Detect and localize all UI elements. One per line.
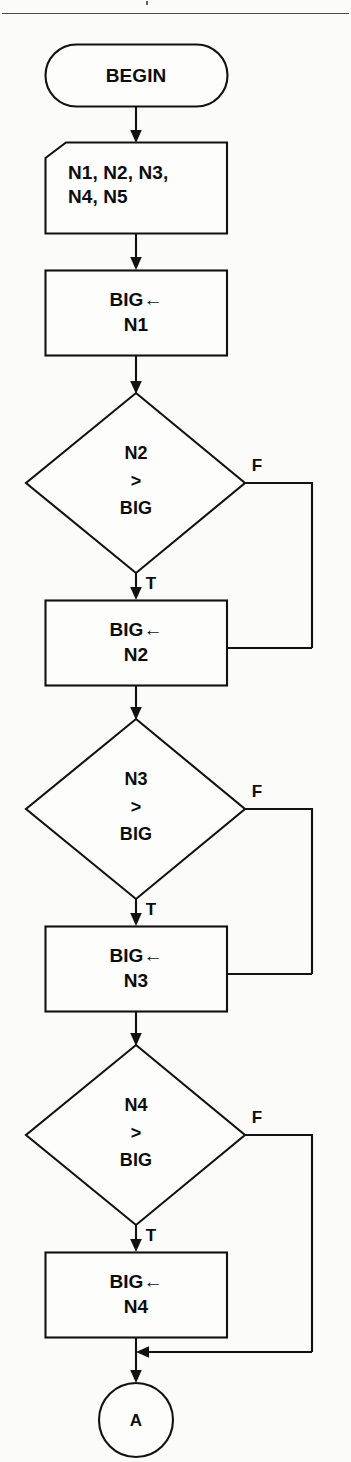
arrowhead-into-input [130,130,142,143]
decision-n4-false-label: F [247,1108,267,1127]
decision-n4-label-line3: BIG [76,1147,196,1174]
input-numbers-label-line1: N1, N2, N3, [68,161,218,185]
arrowhead-into-assign-n1 [130,257,142,270]
decision-n3-false-label: F [247,782,267,801]
arrowhead-n4-false-merge [136,1346,149,1358]
arrowhead-into-connector-a [130,1370,142,1383]
assign-big-n3-label-line1: BIG← [45,944,227,969]
flowchart-page: BEGIN N1, N2, N3, N4, N5 BIG← N1 N2 > BI… [0,0,351,1462]
decision-n3-label-line3: BIG [76,821,196,848]
flowchart-canvas [0,0,351,1462]
connector-a-label: A [116,1411,156,1430]
decision-n2-label-line2: > [76,468,196,495]
connector-n3-false-branch [245,809,312,974]
decision-n3-true-label: T [141,900,161,919]
assign-big-n1-label-line2: N1 [45,313,227,338]
assign-big-n3-label-line2: N3 [45,969,227,994]
connector-n4-false-branch [245,1135,312,1352]
assign-big-n1-label-line1: BIG← [45,288,227,313]
decision-n3-label-line2: > [76,794,196,821]
decision-n2-false-label: F [247,456,267,475]
decision-n4-label-line1: N4 [76,1092,196,1119]
decision-n4-true-label: T [141,1226,161,1245]
terminator-begin-label: BEGIN [45,65,227,86]
decision-n2-label-line1: N2 [76,440,196,467]
connector-n2-false-branch [245,483,312,648]
assign-big-n2-label-line1: BIG← [45,618,227,643]
decision-n4-label-line2: > [76,1120,196,1147]
assign-big-n4-label-line1: BIG← [45,1270,227,1295]
decision-n2-true-label: T [141,574,161,593]
assign-big-n2-label-line2: N2 [45,643,227,668]
decision-n3-label-line1: N3 [76,766,196,793]
assign-big-n4-label-line2: N4 [45,1295,227,1320]
decision-n2-label-line3: BIG [76,495,196,522]
input-numbers-label-line2: N4, N5 [68,185,218,209]
